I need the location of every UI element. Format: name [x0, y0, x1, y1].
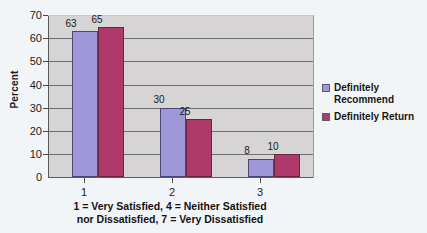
y-tick-label: 50 — [18, 56, 42, 67]
x-category-label: 2 — [152, 186, 192, 198]
legend-label: Definitely Recommend — [334, 82, 420, 105]
x-tick-mark — [172, 178, 173, 183]
y-tick-label: 20 — [18, 126, 42, 137]
bar-group3-recommend — [248, 159, 274, 178]
x-axis-caption: 1 = Very Satisfied, 4 = Neither Satisfie… — [20, 200, 320, 226]
x-category-label: 1 — [64, 186, 104, 198]
legend-item-definitely-recommend: Definitely Recommend — [322, 82, 422, 105]
legend-swatch-icon — [322, 113, 330, 121]
x-axis-caption-line1: 1 = Very Satisfied, 4 = Neither Satisfie… — [20, 200, 320, 213]
y-axis-tick-labels: 70 60 50 40 30 20 10 0 — [14, 0, 42, 233]
legend-swatch-icon — [322, 84, 330, 92]
plot-area — [48, 15, 313, 178]
value-label: 30 — [144, 95, 174, 105]
value-label: 10 — [258, 142, 288, 152]
x-category-label: 3 — [240, 186, 280, 198]
y-tick-label: 10 — [18, 149, 42, 160]
bar-group3-return — [274, 154, 300, 177]
x-tick-mark — [84, 178, 85, 183]
legend: Definitely Recommend Definitely Return — [322, 82, 422, 129]
legend-label: Definitely Return — [334, 111, 414, 123]
value-label: 25 — [170, 107, 200, 117]
bar-chart: Percent 70 60 50 40 30 20 10 0 63 65 30 … — [0, 0, 427, 233]
bar-group1-recommend — [72, 31, 98, 177]
x-axis-caption-line2: nor Dissatisfied, 7 = Very Dissatisfied — [20, 213, 320, 226]
x-tick-mark — [260, 178, 261, 183]
y-tick-label: 30 — [18, 103, 42, 114]
y-tick-label: 0 — [18, 172, 42, 183]
y-tick-label: 60 — [18, 33, 42, 44]
y-tick-label: 70 — [18, 10, 42, 21]
bar-group2-recommend — [160, 108, 186, 177]
bar-group1-return — [98, 27, 124, 177]
legend-item-definitely-return: Definitely Return — [322, 111, 422, 123]
bar-group2-return — [186, 119, 212, 177]
y-tick-label: 40 — [18, 80, 42, 91]
value-label: 65 — [82, 15, 112, 25]
